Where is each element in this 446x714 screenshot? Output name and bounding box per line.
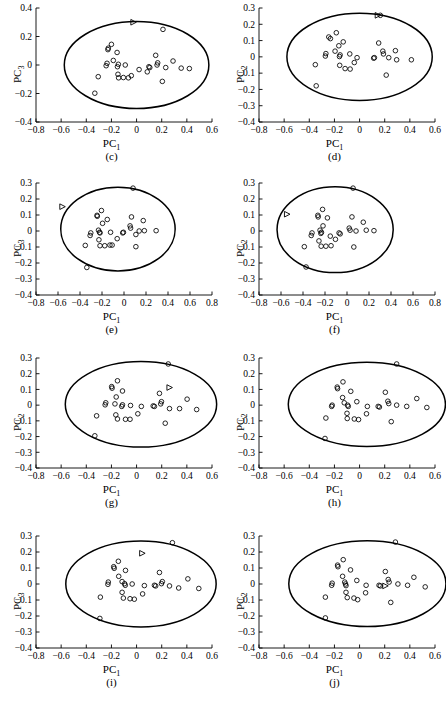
x-tick-label: −0.2 — [326, 651, 343, 661]
scatter-panel-g: −0.8−0.6−0.4−0.200.20.40.60.30.20.10−0.1… — [0, 350, 223, 528]
scatter-panel-i: −0.8−0.6−0.4−0.200.20.40.60.30.20.10−0.1… — [0, 528, 223, 714]
data-point — [423, 585, 428, 590]
y-tick-label: −0.4 — [238, 117, 255, 127]
y-tick-label: 0.1 — [20, 210, 32, 220]
y-axis-label-subscript: 2 — [17, 414, 26, 418]
y-axis-label-text: PC — [11, 70, 23, 83]
data-point — [314, 84, 319, 89]
data-point — [313, 62, 318, 67]
axis-lines — [36, 358, 212, 468]
scatter-panel-h: −0.8−0.6−0.4−0.200.20.40.60.30.20.10−0.1… — [223, 350, 446, 528]
data-point — [108, 230, 113, 235]
data-point — [98, 243, 103, 248]
y-axis-label: PC2 — [234, 414, 249, 431]
x-tick-label: 0.8 — [206, 298, 218, 308]
panel-caption: (g) — [0, 496, 223, 508]
y-tick-label: 0.1 — [20, 563, 32, 573]
y-tick-label: 0.1 — [243, 385, 255, 395]
y-axis-label: PC2 — [11, 414, 26, 431]
x-tick-label: 0.4 — [181, 471, 193, 481]
highlight-marker — [284, 211, 290, 217]
y-axis-label-text: PC — [11, 597, 23, 610]
data-point — [121, 596, 126, 601]
data-point — [145, 70, 150, 75]
y-tick-label: 0.3 — [243, 353, 255, 363]
x-tick-label: 0.6 — [184, 298, 196, 308]
x-tick-label: −0.6 — [276, 471, 293, 481]
y-axis-label-subscript: 2 — [240, 414, 249, 418]
data-point — [394, 57, 399, 62]
y-tick-label: −0.4 — [238, 463, 255, 473]
data-point — [317, 239, 322, 244]
x-tick-label: 0.2 — [379, 471, 391, 481]
data-point — [323, 595, 328, 600]
x-tick-label: 0.6 — [206, 471, 218, 481]
data-point — [141, 218, 146, 223]
y-axis-label-subscript: 3 — [17, 66, 26, 70]
data-point — [341, 40, 346, 45]
x-axis-label-text: PC — [103, 483, 116, 495]
highlight-marker — [140, 550, 146, 556]
y-axis-label: PC3 — [11, 593, 26, 610]
x-tick-label: −0.4 — [78, 471, 95, 481]
y-tick-label: −0.2 — [238, 432, 255, 442]
x-tick-label: 0.6 — [429, 651, 441, 661]
y-tick-label: −0.2 — [238, 258, 255, 268]
data-point — [355, 55, 360, 60]
data-point — [93, 91, 98, 96]
x-tick-label: −0.4 — [78, 651, 95, 661]
x-axis-label-text: PC — [103, 310, 116, 322]
y-axis-label-subscript: 3 — [17, 593, 26, 597]
x-tick-label: 0.4 — [404, 651, 416, 661]
x-tick-label: 0.6 — [407, 298, 419, 308]
data-point — [120, 389, 125, 394]
x-tick-label: 0.2 — [379, 651, 391, 661]
y-tick-label: 0.4 — [20, 3, 32, 13]
data-point — [345, 416, 350, 421]
data-point — [142, 228, 147, 233]
data-point — [347, 52, 352, 57]
data-point — [176, 586, 181, 591]
x-tick-label: −0.6 — [276, 125, 293, 135]
data-point — [425, 405, 430, 410]
figure-panel-grid: −0.8−0.6−0.4−0.200.20.40.60.40.20−0.2−0.… — [0, 0, 446, 714]
x-tick-label: 0 — [345, 298, 350, 308]
y-tick-label: −0.2 — [15, 432, 32, 442]
y-tick-label: −0.4 — [15, 290, 32, 300]
data-point — [134, 244, 139, 249]
data-point — [123, 63, 128, 68]
data-point — [345, 411, 350, 416]
data-point — [154, 228, 159, 233]
data-point — [116, 574, 121, 579]
data-point — [161, 27, 166, 32]
x-tick-label: 0 — [122, 298, 127, 308]
data-point — [341, 557, 346, 562]
data-point — [376, 41, 381, 46]
x-tick-label: 0.6 — [429, 125, 441, 135]
data-point — [328, 234, 333, 239]
x-axis-label-text: PC — [326, 483, 339, 495]
x-tick-label: 0.2 — [140, 298, 152, 308]
y-axis-label: PC2 — [234, 593, 249, 610]
data-point — [177, 406, 182, 411]
data-point — [394, 403, 399, 408]
x-tick-label: 0.2 — [156, 471, 168, 481]
data-point — [98, 595, 103, 600]
data-point — [115, 378, 120, 383]
data-point — [120, 590, 125, 595]
data-point — [119, 404, 124, 409]
y-tick-label: 0.1 — [243, 36, 255, 46]
x-tick-label: −0.4 — [71, 298, 88, 308]
data-point — [179, 66, 184, 71]
data-point — [341, 380, 346, 385]
y-tick-label: −0.2 — [238, 611, 255, 621]
panel-caption: (c) — [0, 150, 223, 162]
highlight-marker — [167, 385, 173, 391]
panel-caption: (h) — [223, 496, 446, 508]
y-tick-label: 0.3 — [20, 178, 32, 188]
x-tick-label: 0.4 — [181, 651, 193, 661]
confidence-ellipse — [66, 541, 216, 627]
y-tick-label: −0.3 — [238, 448, 255, 458]
data-point — [123, 417, 128, 422]
y-tick-label: 0 — [250, 52, 255, 62]
